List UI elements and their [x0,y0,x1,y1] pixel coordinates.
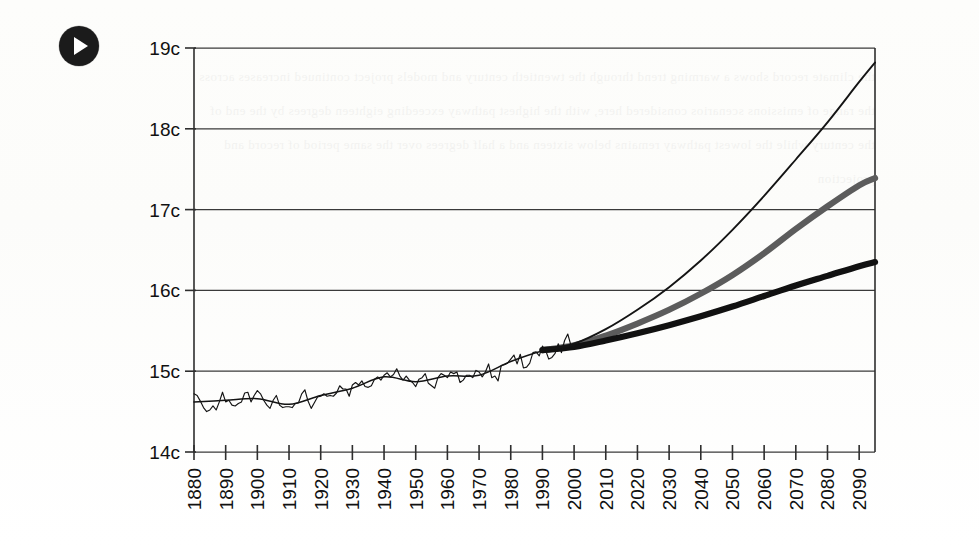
y-tick-label-15c: 15c [149,361,180,382]
x-tick-label-2000: 2000 [564,468,585,510]
x-tick-label-2050: 2050 [722,468,743,510]
x-tick-label-2070: 2070 [786,468,807,510]
series-line-medium-emissions-projection [542,178,875,350]
y-tick-label-19c: 19c [149,38,180,59]
x-tick-label-2020: 2020 [627,468,648,510]
series-line-observed-annual-mean-temperature [194,334,574,412]
x-tick-label-2010: 2010 [596,468,617,510]
x-tick-label-1880: 1880 [184,468,205,510]
x-tick-label-2080: 2080 [817,468,838,510]
x-tick-label-1930: 1930 [342,468,363,510]
y-tick-label-18c: 18c [149,119,180,140]
x-tick-label-1950: 1950 [406,468,427,510]
x-tick-label-2090: 2090 [849,468,870,510]
chart-canvas: 19c18c17c16c15c14c 188018901900191019201… [0,0,979,548]
temperature-projection-chart: 19c18c17c16c15c14c 188018901900191019201… [0,0,979,548]
x-tick-label-2040: 2040 [691,468,712,510]
x-tick-label-1980: 1980 [501,468,522,510]
x-tick-label-1940: 1940 [374,468,395,510]
x-tick-label-2030: 2030 [659,468,680,510]
x-tick-label-1990: 1990 [532,468,553,510]
x-tick-label-1890: 1890 [216,468,237,510]
x-axis-tick-labels: 1880189019001910192019301940195019601970… [184,468,870,510]
data-series [194,63,875,412]
x-tick-label-1920: 1920 [311,468,332,510]
x-tick-label-2060: 2060 [754,468,775,510]
y-tick-label-14c: 14c [149,442,180,463]
y-tick-label-16c: 16c [149,280,180,301]
x-tick-label-1910: 1910 [279,468,300,510]
figure-root: the climate record shows a warming trend… [0,0,979,548]
y-tick-label-17c: 17c [149,200,180,221]
x-tick-label-1960: 1960 [437,468,458,510]
x-tick-label-1970: 1970 [469,468,490,510]
y-axis-tick-labels: 19c18c17c16c15c14c [149,38,180,463]
x-tick-label-1900: 1900 [247,468,268,510]
